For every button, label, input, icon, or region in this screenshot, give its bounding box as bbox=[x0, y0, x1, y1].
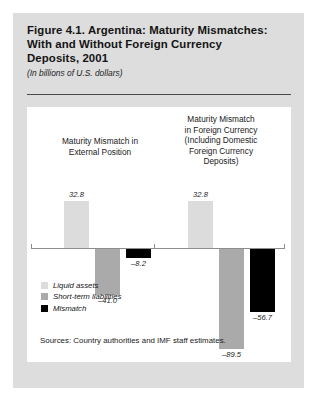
legend-item: Mismatch bbox=[41, 303, 121, 314]
bar-liquid bbox=[64, 201, 89, 248]
bar-mismatch bbox=[250, 249, 275, 312]
bar-value-label: –89.5 bbox=[206, 350, 257, 359]
figure-subtitle: (In billions of U.S. dollars) bbox=[27, 68, 291, 79]
plot-area: 32.832.8–41.0–89.5–8.2–56.7 bbox=[27, 107, 291, 307]
legend-label: Liquid assets bbox=[53, 281, 99, 290]
bar-liquid bbox=[188, 201, 213, 248]
axis-tick bbox=[154, 244, 155, 248]
bar-value-label: –8.2 bbox=[113, 259, 164, 268]
legend-item: Short-term liabilities bbox=[41, 292, 121, 303]
source-note: Sources: Country authorities and IMF sta… bbox=[40, 336, 284, 346]
bar-value-label: 32.8 bbox=[175, 190, 226, 199]
figure-title: Figure 4.1. Argentina: Maturity Mismatch… bbox=[27, 23, 291, 66]
bar-mismatch bbox=[126, 249, 151, 258]
bar-value-label: 32.8 bbox=[51, 190, 102, 199]
figure-heading: Figure 4.1. Argentina: Maturity Mismatch… bbox=[27, 23, 291, 79]
legend-swatch-stliab bbox=[41, 293, 48, 300]
zero-axis-line bbox=[31, 248, 285, 249]
axis-tick bbox=[284, 244, 285, 248]
figure-root: Figure 4.1. Argentina: Maturity Mismatch… bbox=[0, 0, 317, 403]
legend-swatch-liquid bbox=[41, 282, 48, 289]
plot-card: Maturity Mismatch inExternal Position Ma… bbox=[27, 107, 291, 362]
legend-label: Mismatch bbox=[53, 304, 86, 313]
bar-value-label: –56.7 bbox=[237, 313, 288, 322]
figure-panel: Figure 4.1. Argentina: Maturity Mismatch… bbox=[13, 13, 304, 388]
figure-title-line-2: With and Without Foreign Currency bbox=[27, 38, 222, 50]
chart-legend: Liquid assetsShort-term liabilitiesMisma… bbox=[41, 280, 121, 315]
axis-tick bbox=[31, 244, 32, 248]
header-divider bbox=[27, 94, 291, 95]
bar-stliab bbox=[219, 249, 244, 349]
legend-swatch-mismatch bbox=[41, 305, 48, 312]
figure-title-line-3: Deposits, 2001 bbox=[27, 52, 108, 64]
legend-item: Liquid assets bbox=[41, 280, 121, 291]
figure-title-line-1: Figure 4.1. Argentina: Maturity Mismatch… bbox=[27, 24, 268, 36]
legend-label: Short-term liabilities bbox=[53, 292, 121, 301]
